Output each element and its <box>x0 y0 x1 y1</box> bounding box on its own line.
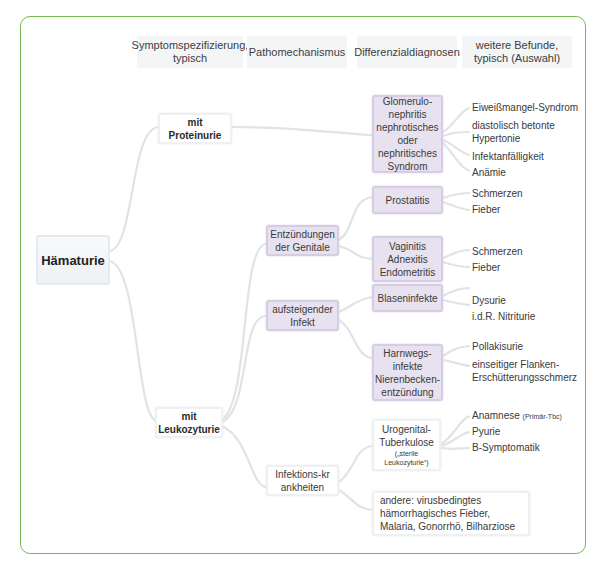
node-harnwegsinfekte: Harnwegs-infekte Nierenbecken-entzündung <box>372 344 443 401</box>
finding-anamnese: Anamnese (Primär-Tbc) <box>472 409 562 423</box>
root-node-haematurie: Hämaturie <box>36 235 110 285</box>
finding-anaemie: Anämie <box>472 166 506 179</box>
node-glomerulonephritis: Glomerulo-nephritis nephrotisches oder n… <box>372 95 443 173</box>
finding-flankenschmerz: einseitiger Flanken-Erschütterungsschmer… <box>472 358 577 384</box>
tuberkulose-label: Urogenital-Tuberkulose <box>376 423 437 449</box>
finding-b-symptomatik: B-Symptomatik <box>472 441 540 454</box>
finding-pyurie: Pyurie <box>472 425 500 438</box>
finding-anamnese-label: Anamnese <box>472 410 520 421</box>
node-entzuendungen-der-genitale: Entzündungen der Genitale <box>266 225 339 256</box>
finding-hypertonie: diastolisch betonte Hypertonie <box>472 119 562 145</box>
finding-eiweissmangel: Eiweißmangel-Syndrom <box>472 101 578 114</box>
finding-nitriturie: i.d.R. Nitriturie <box>472 310 535 323</box>
finding-vaginitis-fieber: Fieber <box>472 261 500 274</box>
node-andere-infektionskrankheiten: andere: virusbedingtes hämorrhagisches F… <box>372 491 530 536</box>
node-mit-proteinurie: mit Proteinurie <box>158 113 232 144</box>
finding-anamnese-note: (Primär-Tbc) <box>523 413 562 420</box>
finding-prostatitis-schmerzen: Schmerzen <box>472 187 523 200</box>
node-vaginitis-adnexitis-endometritis: Vaginitis Adnexitis Endometritis <box>372 236 443 282</box>
finding-pollakisurie: Pollakisurie <box>472 340 523 353</box>
finding-dysurie: Dysurie <box>472 294 506 307</box>
finding-prostatitis-fieber: Fieber <box>472 203 500 216</box>
tuberkulose-note: („sterile Leukozyturie“) <box>376 449 437 467</box>
node-aufsteigender-infekt: aufsteigender Infekt <box>266 300 339 331</box>
finding-infektanfaelligkeit: Infektanfälligkeit <box>472 150 544 163</box>
node-prostatitis: Prostatitis <box>372 186 443 214</box>
node-mit-leukozyturie: mit Leukozyturie <box>155 407 223 438</box>
node-urogenital-tuberkulose: Urogenital-Tuberkulose („sterile Leukozy… <box>372 419 441 471</box>
node-infektionskrankheiten: Infektions-krankheiten <box>266 465 339 496</box>
finding-vaginitis-schmerzen: Schmerzen <box>472 245 523 258</box>
node-blaseninfekte: Blaseninfekte <box>372 284 443 312</box>
